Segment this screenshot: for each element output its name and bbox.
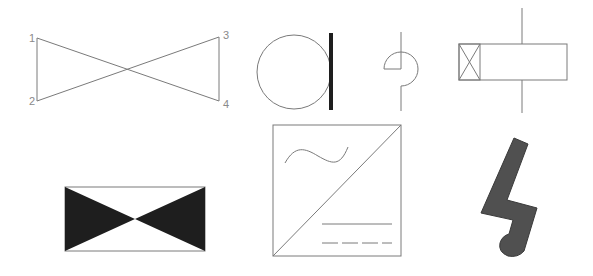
lightning-bolt-icon [481, 138, 537, 256]
diagram-canvas: 1 2 3 4 [0, 0, 593, 276]
thick-bar [329, 33, 333, 110]
wave-line [285, 147, 348, 163]
outer-rect [459, 44, 567, 80]
rect-crossed-box-symbol [459, 8, 567, 113]
filled-bowtie-symbol [65, 187, 205, 251]
semicircle-line-symbol [384, 32, 418, 111]
bowtie-right-triangle [135, 187, 205, 251]
diagonal-line [273, 125, 401, 256]
crossed-quad-symbol: 1 2 3 4 [29, 29, 229, 110]
corner-label-1: 1 [29, 32, 35, 44]
circle-bar-symbol [257, 33, 333, 110]
circle-shape [257, 35, 331, 109]
corner-label-2: 2 [29, 95, 35, 107]
square-diagonal-symbol [273, 125, 401, 256]
corner-label-3: 3 [223, 29, 229, 41]
corner-label-4: 4 [223, 98, 229, 110]
crossed-quad-outline [37, 37, 219, 101]
bowtie-left-triangle [65, 187, 135, 251]
lightning-bolt-symbol [481, 138, 537, 256]
